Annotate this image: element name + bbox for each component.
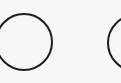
circle-left-shape (0, 13, 53, 71)
circle-right-shape (107, 14, 121, 72)
